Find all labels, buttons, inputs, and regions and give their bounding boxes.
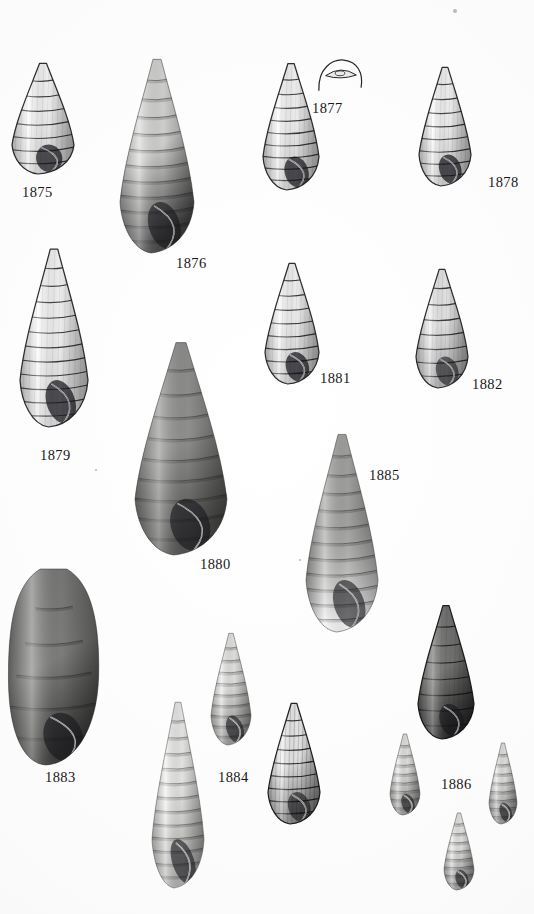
specimen-fig-1886-small-right [489, 742, 517, 824]
specimen-fig-unnumbered-left-of-1877 [263, 62, 319, 190]
specimen-1880 [135, 340, 227, 555]
specimen-1882 [416, 268, 468, 388]
specimen-1884 [211, 632, 251, 745]
figure-caption-1881: 1881 [320, 371, 351, 386]
figure-caption-1877: 1877 [312, 101, 343, 116]
specimen-fig-unnumbered-tall-pale [152, 700, 204, 888]
figure-caption-1876: 1876 [176, 256, 207, 271]
specimen-1881 [265, 262, 319, 384]
figure-caption-1878: 1878 [488, 175, 519, 190]
specimen-fig-1886-small-left [390, 733, 420, 815]
specimen-1878 [419, 66, 471, 186]
figure-caption-1883: 1883 [45, 770, 76, 785]
specimen-1886 [418, 604, 474, 739]
figure-caption-1880: 1880 [200, 557, 231, 572]
specimen-1885 [306, 432, 378, 632]
illustration-plate: 1875187618771878187918801881188218831884… [0, 0, 534, 914]
paper-speck [453, 9, 457, 13]
specimen-fig-1886-small-bottom [444, 812, 474, 890]
figure-caption-1879: 1879 [40, 448, 71, 463]
specimen-fig-unnumbered-hatched [268, 702, 320, 824]
figure-caption-1884: 1884 [218, 770, 249, 785]
figure-caption-1882: 1882 [472, 377, 503, 392]
specimen-1875 [12, 62, 74, 174]
specimen-1876 [120, 57, 194, 253]
specimen-1877 [316, 58, 364, 92]
specimen-1879 [20, 247, 88, 427]
figure-caption-1885: 1885 [369, 468, 400, 483]
figure-caption-1875: 1875 [22, 185, 53, 200]
figure-caption-1886: 1886 [441, 777, 472, 792]
specimen-1883 [8, 565, 100, 765]
